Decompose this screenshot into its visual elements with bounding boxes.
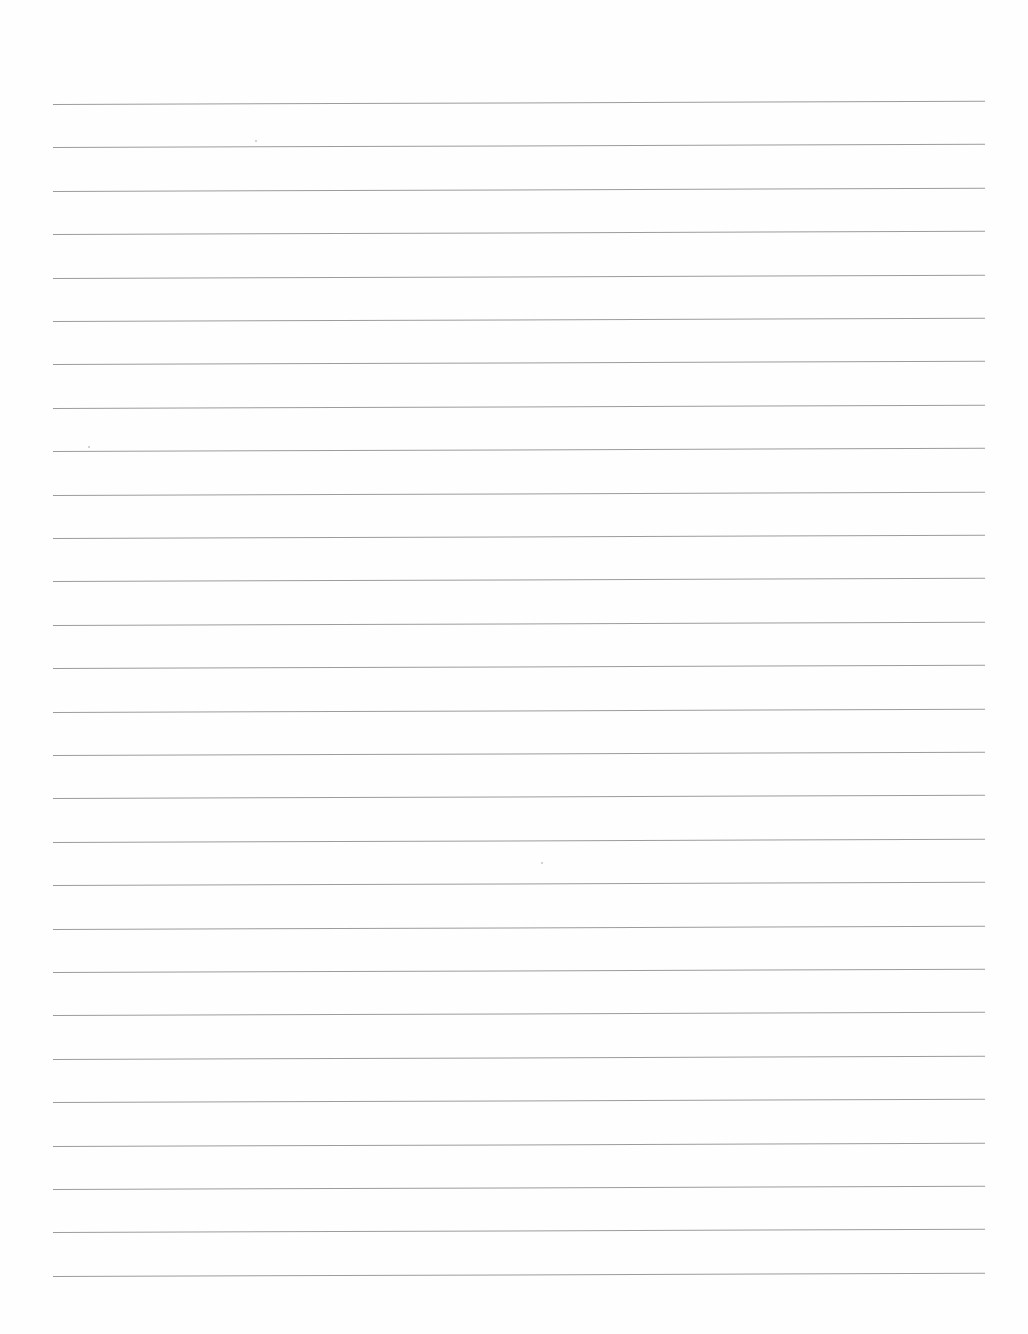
scan-speck	[255, 140, 257, 142]
ruled-line	[53, 969, 985, 973]
ruled-line	[53, 708, 985, 712]
ruled-line	[53, 318, 985, 322]
ruled-line	[53, 188, 985, 192]
ruled-line	[53, 1099, 985, 1103]
ruled-line	[53, 665, 985, 669]
scan-speck	[88, 446, 90, 448]
ruled-line	[53, 491, 985, 495]
ruled-line	[53, 1012, 985, 1016]
lined-paper-page	[0, 0, 1028, 1334]
ruled-line	[53, 144, 985, 148]
ruled-line	[53, 448, 985, 452]
ruled-line	[53, 1142, 985, 1146]
ruled-line	[53, 1186, 985, 1190]
ruled-line	[53, 1056, 985, 1060]
scan-speck	[541, 862, 543, 864]
ruled-line	[53, 274, 985, 278]
ruled-line	[53, 1273, 985, 1277]
ruled-line	[53, 925, 985, 929]
ruled-line	[53, 795, 985, 799]
ruled-line	[53, 882, 985, 886]
ruled-line	[53, 361, 985, 365]
ruled-line	[53, 405, 985, 409]
ruled-line	[53, 839, 985, 843]
ruled-line	[53, 1229, 985, 1233]
ruled-line	[53, 622, 985, 626]
ruled-line	[53, 578, 985, 582]
ruled-line	[53, 752, 985, 756]
ruled-line	[53, 101, 985, 105]
ruled-line	[53, 535, 985, 539]
ruled-line	[53, 231, 985, 235]
